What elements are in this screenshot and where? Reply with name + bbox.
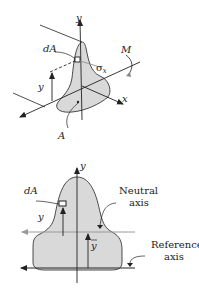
reference-axis-label-line1: Reference xyxy=(151,239,199,250)
top-y-axis-label: y xyxy=(75,12,82,23)
top-x-axis-label: x xyxy=(122,93,128,104)
bottom-y-distance-label: y xyxy=(37,211,44,222)
moment-label: M xyxy=(120,44,132,55)
dA-element xyxy=(75,57,80,62)
reference-axis-label-line2: axis xyxy=(164,251,184,262)
top-dA-label: dA xyxy=(43,43,57,54)
plane-edge-upper xyxy=(40,25,82,42)
neutral-axis-label-line1: Neutral xyxy=(119,185,158,196)
plane-edge-lower xyxy=(13,93,45,107)
y-bar-label: y xyxy=(90,240,97,251)
neutral-axis-label-line2: axis xyxy=(129,197,149,208)
reference-arrowhead-icon xyxy=(127,263,133,267)
moment-arrow xyxy=(126,55,132,75)
bottom-dA-label: dA xyxy=(24,185,38,196)
cross-section-shape xyxy=(57,42,110,112)
dA-element xyxy=(59,201,66,206)
area-label: A xyxy=(57,130,65,141)
moment-arrowhead-icon xyxy=(126,72,131,77)
reference-axis-leader xyxy=(130,256,145,264)
bottom-2d-cross-section: y dA y y Neutral axis Reference axis xyxy=(21,160,199,283)
bending-stress-diagram: y x dA M σx y A y dA y y xyxy=(0,0,199,293)
top-y-distance-label: y xyxy=(37,81,44,92)
bottom-y-axis-label: y xyxy=(79,160,86,171)
top-3d-beam-section: y x dA M σx y A xyxy=(13,12,140,141)
stress-label: σx xyxy=(96,62,107,75)
cross-section-shape xyxy=(33,177,122,270)
area-dot xyxy=(77,101,79,103)
dA-leader xyxy=(36,201,59,204)
dA-leader xyxy=(55,52,75,59)
